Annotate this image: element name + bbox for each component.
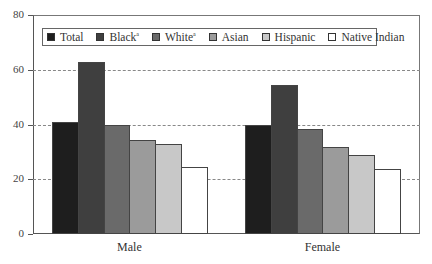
- y-tick-label: 60: [0, 63, 24, 75]
- bar-native-indian-male: [181, 167, 208, 234]
- y-tick-mark: [28, 234, 33, 235]
- y-tick-label: 80: [0, 8, 24, 20]
- y-tick-mark: [28, 15, 33, 16]
- legend-label: Whitea: [165, 31, 196, 43]
- legend-label: Asian: [222, 31, 249, 43]
- bar-black-male: [78, 62, 105, 234]
- bar-asian-male: [129, 140, 156, 234]
- legend-label: Hispanic: [275, 31, 316, 43]
- legend: TotalBlackaWhiteaAsianHispanicNative Ind…: [42, 28, 377, 46]
- bar-hispanic-male: [155, 144, 182, 234]
- legend-item: Total: [47, 31, 83, 43]
- legend-swatch: [209, 33, 217, 41]
- legend-swatch: [47, 33, 55, 41]
- legend-swatch: [328, 33, 336, 41]
- bar-total-male: [52, 122, 79, 234]
- bar-total-female: [245, 125, 272, 234]
- legend-item: Whitea: [152, 31, 196, 43]
- bar-black-female: [271, 85, 298, 234]
- bar-native-indian-female: [374, 169, 401, 234]
- legend-swatch: [262, 33, 270, 41]
- bar-asian-female: [322, 147, 349, 234]
- legend-swatch: [152, 33, 160, 41]
- bar-white-female: [297, 129, 324, 234]
- legend-label: Blacka: [109, 31, 139, 43]
- legend-item: Native Indian: [328, 31, 404, 43]
- legend-item: Hispanic: [262, 31, 316, 43]
- y-tick-label: 40: [0, 118, 24, 130]
- y-tick-label: 0: [0, 227, 24, 239]
- x-category-label: Female: [262, 240, 382, 255]
- legend-item: Blacka: [96, 31, 139, 43]
- bar-hispanic-female: [348, 155, 375, 234]
- legend-label: Native Indian: [341, 31, 404, 43]
- legend-item: Asian: [209, 31, 249, 43]
- bar-white-male: [104, 125, 131, 234]
- x-category-label: Male: [69, 240, 189, 255]
- y-tick-label: 20: [0, 172, 24, 184]
- legend-swatch: [96, 33, 104, 41]
- legend-label: Total: [60, 31, 83, 43]
